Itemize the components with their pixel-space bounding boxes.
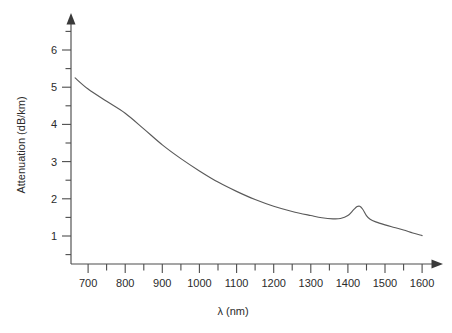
x-tick-label: 1200 (261, 277, 285, 289)
y-tick-label: 5 (51, 81, 57, 93)
y-axis-minor-ticks (66, 31, 72, 254)
y-tick-label: 6 (51, 44, 57, 56)
x-tick-label: 900 (153, 277, 171, 289)
x-tick-label: 1600 (410, 277, 434, 289)
x-tick-label: 1100 (225, 277, 249, 289)
y-axis-title: Attenuation (dB/km) (15, 96, 27, 193)
x-axis-tick-labels: 700 800 900 1000 1100 1200 1300 1400 150… (79, 277, 434, 289)
y-tick-label: 4 (51, 118, 57, 130)
attenuation-chart-figure: 1 2 3 4 5 6 (0, 0, 452, 333)
y-tick-label: 3 (51, 156, 57, 168)
x-tick-label: 800 (116, 277, 134, 289)
y-axis-arrow-icon (67, 13, 76, 25)
x-tick-label: 700 (79, 277, 97, 289)
attenuation-curve (75, 78, 422, 236)
x-tick-label: 1300 (299, 277, 323, 289)
x-axis-minor-ticks (107, 264, 404, 271)
x-axis-arrow-icon (432, 260, 444, 269)
y-tick-label: 2 (51, 193, 57, 205)
attenuation-plot: 1 2 3 4 5 6 (0, 0, 452, 333)
x-tick-label: 1400 (336, 277, 360, 289)
x-tick-label: 1500 (373, 277, 397, 289)
x-tick-label: 1000 (187, 277, 211, 289)
y-tick-label: 1 (51, 230, 57, 242)
y-axis-tick-labels: 1 2 3 4 5 6 (51, 44, 57, 242)
x-axis-title: λ (nm) (217, 305, 248, 317)
